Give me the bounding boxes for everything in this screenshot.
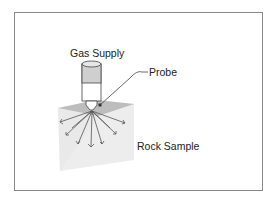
gas-probe-diagram: [0, 0, 278, 202]
probe-label: Probe: [149, 66, 177, 78]
rock-sample: [58, 100, 134, 171]
gas-supply-label: Gas Supply: [70, 47, 124, 59]
rock-sample-label: Rock Sample: [137, 140, 199, 152]
